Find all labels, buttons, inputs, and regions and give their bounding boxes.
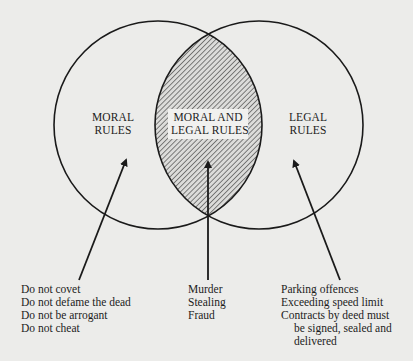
legal-rules-label: LEGAL RULES — [278, 111, 338, 137]
legal-rules-label-line2: RULES — [278, 124, 338, 137]
list-item: Do not covet — [21, 283, 131, 296]
legal-examples-list: Parking offences Exceeding speed limit C… — [281, 283, 392, 348]
intersection-label-line2: LEGAL RULES — [171, 124, 245, 137]
list-item: Do not be arrogant — [21, 309, 131, 322]
moral-examples-list: Do not covet Do not defame the dead Do n… — [21, 283, 131, 335]
moral-rules-label-line2: RULES — [83, 124, 143, 137]
moral-rules-label-line1: MORAL — [83, 111, 143, 124]
moral-rules-label: MORAL RULES — [83, 111, 143, 137]
list-item: Murder — [188, 283, 226, 296]
list-item: Stealing — [188, 296, 226, 309]
list-item-continuation: be signed, sealed and — [281, 322, 392, 335]
intersection-label-line1: MORAL AND — [171, 111, 245, 124]
list-item: Exceeding speed limit — [281, 296, 392, 309]
legal-rules-label-line1: LEGAL — [278, 111, 338, 124]
list-item: Parking offences — [281, 283, 392, 296]
list-item-continuation: delivered — [281, 335, 392, 348]
list-item: Fraud — [188, 309, 226, 322]
both-examples-list: Murder Stealing Fraud — [188, 283, 226, 322]
list-item: Do not cheat — [21, 322, 131, 335]
moral-and-legal-rules-label: MORAL AND LEGAL RULES — [168, 109, 248, 139]
list-item: Do not defame the dead — [21, 296, 131, 309]
moral-arrow — [79, 160, 126, 280]
list-item: Contracts by deed must — [281, 309, 392, 322]
